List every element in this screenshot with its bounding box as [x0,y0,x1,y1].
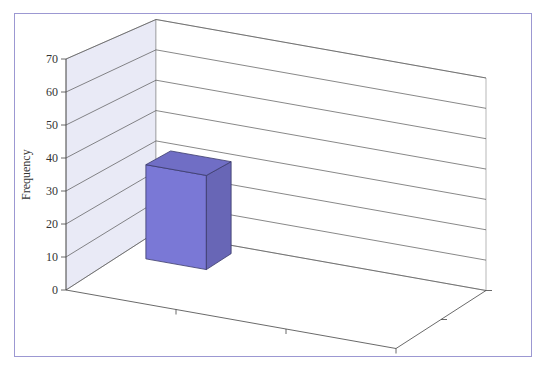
bar-chart-3d: 010203040506070Frequency [0,0,543,373]
y-tick-label: 30 [46,184,58,198]
bar-front [146,165,207,270]
y-tick-label: 70 [46,52,58,66]
y-tick-label: 40 [46,151,58,165]
left-wall [66,19,156,290]
floor-edge [66,290,486,349]
bar-side [206,162,231,270]
y-tick-label: 20 [46,217,58,231]
y-tick-label: 10 [46,250,58,264]
bar-whistle-female [146,165,207,270]
y-tick-label: 0 [52,283,58,297]
y-tick-label: 60 [46,85,58,99]
plot-area: 010203040506070Frequency [19,19,492,353]
y-tick-label: 50 [46,118,58,132]
y-axis-label: Frequency [19,149,33,200]
